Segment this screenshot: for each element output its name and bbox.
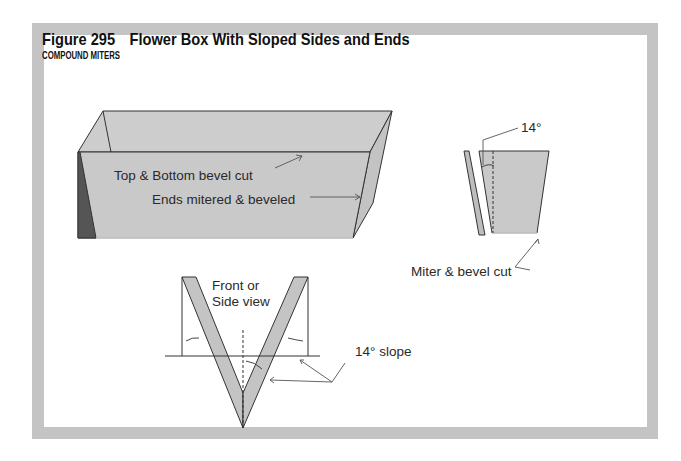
label-front-or: Front or [212,278,260,293]
label-miter-bevel-cut: Miter & bevel cut [411,264,512,279]
label-14-slope: 14° slope [355,344,411,359]
label-14-degree: 14° [521,120,541,135]
v-leaders [270,360,345,383]
label-ends-mitered: Ends mitered & beveled [152,192,295,207]
v-left-angle-arc [186,338,199,341]
side-trapezoid [479,151,549,233]
v-right-angle-arc [288,338,303,341]
label-top-bottom-bevel: Top & Bottom bevel cut [114,168,253,183]
diagram-canvas: Top & Bottom bevel cut Ends mitered & be… [0,0,681,461]
label-side-view: Side view [212,294,270,309]
box-back-panel [78,111,392,152]
side-piece-drawing [464,151,549,235]
